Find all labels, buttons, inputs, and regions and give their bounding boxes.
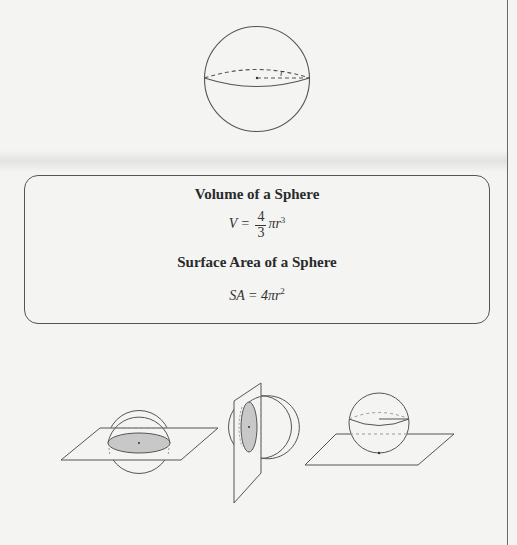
diagram-vertical-cross-section — [229, 383, 300, 503]
diagram-tangent-plane — [305, 393, 454, 465]
bottom-diagrams — [0, 0, 517, 545]
diagram-horizontal-cross-section — [61, 411, 218, 474]
